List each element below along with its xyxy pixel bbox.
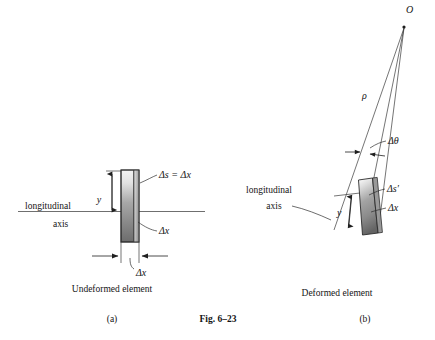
delta-x-bottom-leader-a — [130, 258, 134, 269]
y-label-b: y — [336, 207, 342, 218]
y-dimension-arrow-b — [349, 197, 352, 224]
panel-a-caption: Undeformed element — [72, 284, 153, 294]
panel-b-tag: (b) — [359, 314, 370, 325]
undeformed-element-side-face — [134, 170, 140, 242]
arc-length-label-a: Δs = Δx — [158, 169, 191, 180]
panel-a-tag: (a) — [107, 314, 118, 325]
y-label-a: y — [96, 194, 102, 205]
delta-x-side-leader-a — [138, 222, 157, 231]
center-of-curvature-label: O — [406, 4, 413, 15]
radius-label: ρ — [361, 90, 367, 101]
panel-b-deformed: O ρ Δθ y Δs′ Δx — [246, 4, 413, 325]
panel-a-undeformed: y Δs = Δx Δx Δx longitudinal axis Undefo… — [18, 169, 205, 325]
delta-theta-arrow-right — [370, 154, 385, 156]
figure-number: Fig. 6–23 — [200, 314, 237, 324]
y-dimension-arrow-b2 — [348, 199, 351, 226]
longitudinal-axis-leader-b — [292, 206, 331, 220]
delta-x-bottom-label-a: Δx — [135, 267, 147, 278]
figure-svg: y Δs = Δx Δx Δx longitudinal axis Undefo… — [0, 0, 435, 340]
longitudinal-label-b: longitudinal — [246, 185, 292, 195]
arc-length-label-b: Δs′ — [386, 183, 400, 194]
longitudinal-label-a: longitudinal — [25, 201, 71, 211]
axis-label-b: axis — [266, 201, 282, 211]
figure-container: y Δs = Δx Δx Δx longitudinal axis Undefo… — [0, 0, 435, 340]
panel-b-caption: Deformed element — [302, 288, 373, 298]
delta-x-side-label-a: Δx — [158, 225, 170, 236]
delta-theta-leader — [370, 141, 386, 148]
delta-theta-label: Δθ — [387, 135, 399, 146]
arc-length-leader-a — [140, 175, 157, 183]
delta-x-label-b: Δx — [387, 202, 399, 213]
axis-label-a: axis — [53, 219, 69, 229]
